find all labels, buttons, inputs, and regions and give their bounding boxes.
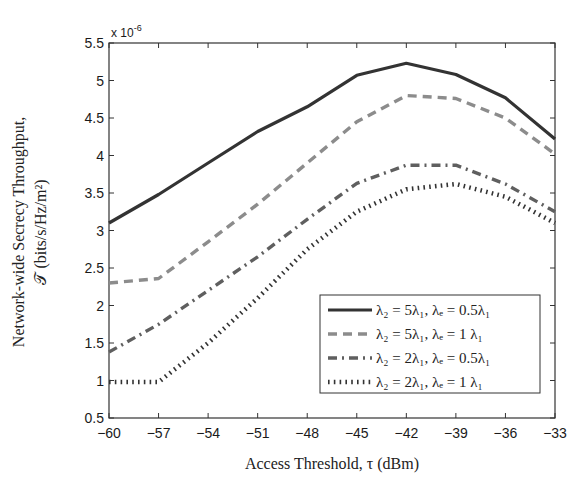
y-exponent-label: x 10-6	[111, 23, 142, 40]
x-tick-labels: −60−57−54−51−48−45−42−39−36−33	[97, 425, 567, 441]
y-tick-label: 2	[96, 298, 104, 314]
x-tick-label: −48	[295, 425, 319, 441]
x-tick-label: −36	[494, 425, 518, 441]
y-tick-label: 1	[96, 373, 104, 389]
y-tick-label: 3.5	[85, 185, 105, 201]
legend: λ₂ = 5λ₁, λₑ = 0.5λ₁λ₂ = 5λ₁, λₑ = 1 λ₁λ…	[320, 295, 540, 393]
x-axis-label: Access Threshold, τ (dBm)	[245, 455, 419, 473]
y-tick-label: 1.5	[85, 335, 105, 351]
x-tick-label: −51	[246, 425, 270, 441]
y-axis-label-line1: Network-wide Secrecy Throughput,	[10, 117, 28, 347]
legend-label-1: λ₂ = 5λ₁, λₑ = 0.5λ₁	[376, 302, 490, 318]
x-tick-label: −33	[543, 425, 567, 441]
legend-label-3: λ₂ = 2λ₁, λₑ = 0.5λ₁	[376, 350, 490, 366]
y-tick-label: 3	[96, 223, 104, 239]
y-tick-label: 4	[96, 148, 104, 164]
y-tick-label: 5	[96, 73, 104, 89]
y-tick-label: 2.5	[85, 260, 105, 276]
x-tick-label: −60	[97, 425, 121, 441]
y-tick-label: 5.5	[85, 35, 105, 51]
x-tick-label: −42	[394, 425, 418, 441]
y-tick-label: 0.5	[85, 410, 105, 426]
legend-label-4: λ₂ = 2λ₁, λₑ = 1 λ₁	[376, 374, 483, 390]
legend-label-2: λ₂ = 5λ₁, λₑ = 1 λ₁	[376, 326, 483, 342]
x-tick-label: −39	[444, 425, 468, 441]
line-chart: −60−57−54−51−48−45−42−39−36−33 0.511.522…	[0, 0, 583, 481]
x-tick-label: −57	[147, 425, 171, 441]
y-axis-label-line2: 𝒯 (bits/s/Hz/m²)	[32, 179, 50, 284]
x-tick-label: −45	[345, 425, 369, 441]
x-tick-label: −54	[196, 425, 220, 441]
y-tick-label: 4.5	[85, 110, 105, 126]
y-tick-labels: 0.511.522.533.544.555.5	[85, 35, 105, 426]
